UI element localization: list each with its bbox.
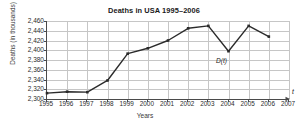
- data-point-marker: [46, 92, 49, 95]
- x-tick-mark: [207, 99, 208, 102]
- data-point-marker: [86, 91, 89, 94]
- data-point-marker: [247, 25, 250, 28]
- y-tick-label: 2,440: [12, 27, 44, 35]
- x-tick-mark: [187, 99, 188, 102]
- x-tick-mark: [288, 99, 289, 102]
- data-point-marker: [227, 50, 230, 53]
- data-point-marker: [126, 52, 129, 55]
- data-point-marker: [167, 39, 170, 42]
- y-tick-label: 2,360: [12, 66, 44, 74]
- y-tick-mark: [44, 89, 47, 90]
- data-point-marker: [187, 27, 190, 30]
- y-tick-label: 2,340: [12, 76, 44, 84]
- data-point-marker: [106, 79, 109, 82]
- x-tick-mark: [228, 99, 229, 102]
- gridline-vertical: [289, 21, 290, 99]
- x-tick-mark: [66, 99, 67, 102]
- x-tick-mark: [46, 99, 47, 102]
- x-tick-mark: [107, 99, 108, 102]
- data-series-line: [47, 21, 289, 99]
- y-tick-label: 2,460: [12, 17, 44, 25]
- data-point-marker: [268, 35, 271, 38]
- y-tick-mark: [44, 60, 47, 61]
- y-tick-mark: [44, 41, 47, 42]
- plot-area: [46, 21, 289, 100]
- series-polyline: [47, 26, 269, 93]
- data-point-marker: [66, 90, 69, 93]
- y-tick-label: 2,380: [12, 56, 44, 64]
- y-tick-label: 2,420: [12, 37, 44, 45]
- curve-label: D(t): [216, 57, 227, 64]
- y-tick-mark: [44, 50, 47, 51]
- y-tick-mark: [44, 21, 47, 22]
- y-axis-tick-labels: 2,3002,3202,3402,3602,3802,4002,4202,440…: [12, 14, 44, 106]
- x-tick-mark: [248, 99, 249, 102]
- x-tick-mark: [268, 99, 269, 102]
- x-tick-mark: [167, 99, 168, 102]
- x-tick-mark: [86, 99, 87, 102]
- y-tick-label: 2,400: [12, 46, 44, 54]
- y-tick-label: 2,320: [12, 85, 44, 93]
- data-point-marker: [147, 47, 150, 50]
- chart-title: Deaths in USA 1995–2006: [0, 6, 308, 15]
- y-tick-mark: [44, 80, 47, 81]
- y-tick-mark: [44, 70, 47, 71]
- x-axis-title: Years: [0, 112, 290, 119]
- x-tick-mark: [127, 99, 128, 102]
- x-tick-mark: [147, 99, 148, 102]
- data-point-marker: [207, 25, 210, 28]
- chart-figure: Deaths in USA 1995–2006 Deaths (in thous…: [0, 0, 308, 131]
- x-axis-arrow-label: t: [292, 88, 294, 95]
- y-tick-mark: [44, 31, 47, 32]
